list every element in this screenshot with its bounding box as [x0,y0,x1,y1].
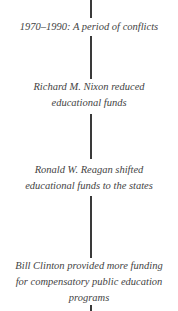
node-text: programs [0,290,178,306]
connector-line [90,0,92,18]
node-text: 1970–1990: A period of conflicts [0,19,178,35]
timeline-node-nixon: Richard M. Nixon reduced educational fun… [0,79,178,111]
timeline-node-clinton: Bill Clinton provided more funding for c… [0,258,178,306]
node-text: educational funds [0,95,178,111]
node-text: educational funds to the states [0,178,178,194]
connector-line [90,305,92,311]
connector-line [90,36,92,79]
connector-line [90,114,92,159]
node-text: Ronald W. Reagan shifted [0,162,178,178]
node-text: Richard M. Nixon reduced [0,79,178,95]
node-text: Bill Clinton provided more funding [0,258,178,274]
timeline-node-reagan: Ronald W. Reagan shifted educational fun… [0,162,178,194]
node-text: for compensatory public education [0,274,178,290]
timeline-node-period: 1970–1990: A period of conflicts [0,19,178,35]
connector-line [90,196,92,258]
